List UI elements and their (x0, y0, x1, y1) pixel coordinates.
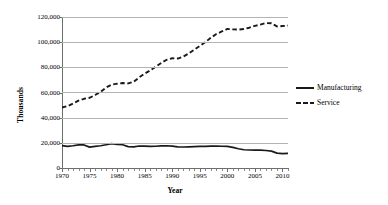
y-tick-label: 120,000 (24, 13, 60, 21)
x-tick-label: 1975 (75, 172, 105, 180)
x-tick-mark-minor (211, 169, 212, 171)
x-tick-mark-minor (73, 169, 74, 171)
x-tick-mark-minor (128, 169, 129, 171)
legend-swatch-solid-icon (296, 83, 314, 93)
chart-legend: Manufacturing Service (296, 80, 388, 110)
x-tick-label: 1985 (130, 172, 160, 180)
x-tick-mark-minor (244, 169, 245, 171)
x-tick-mark-minor (249, 169, 250, 171)
y-tick-mark (59, 118, 62, 119)
series-line-service (62, 23, 288, 108)
x-tick-mark-minor (183, 169, 184, 171)
x-tick-mark-minor (139, 169, 140, 171)
x-tick-mark-minor (161, 169, 162, 171)
x-axis-title: Year (62, 186, 288, 195)
x-tick-mark-minor (68, 169, 69, 171)
x-tick-mark-minor (266, 169, 267, 171)
x-tick-mark-minor (79, 169, 80, 171)
legend-swatch-dashed-icon (296, 98, 314, 108)
x-tick-mark-minor (277, 169, 278, 171)
x-tick-mark-minor (95, 169, 96, 171)
y-tick-label: 100,000 (24, 38, 60, 46)
y-tick-mark (59, 168, 62, 169)
chart-figure: Thousands 020,00040,00060,00080,000100,0… (0, 0, 388, 205)
x-tick-mark-minor (233, 169, 234, 171)
gridline (62, 42, 288, 43)
y-tick-label: 80,000 (24, 63, 60, 71)
gridline (62, 143, 288, 144)
x-tick-mark-minor (101, 169, 102, 171)
y-tick-mark (59, 67, 62, 68)
x-tick-mark-minor (106, 169, 107, 171)
x-tick-label: 1970 (47, 172, 77, 180)
gridline (62, 67, 288, 68)
x-tick-label: 1995 (185, 172, 215, 180)
x-tick-label: 2010 (267, 172, 297, 180)
y-tick-label: 40,000 (24, 114, 60, 122)
gridline (62, 92, 288, 93)
x-tick-label: 1980 (102, 172, 132, 180)
x-tick-mark-minor (222, 169, 223, 171)
y-tick-label: 20,000 (24, 139, 60, 147)
x-tick-mark-minor (288, 169, 289, 171)
x-tick-label: 2000 (212, 172, 242, 180)
plot-area (62, 17, 288, 168)
x-tick-mark-minor (194, 169, 195, 171)
x-tick-mark-minor (178, 169, 179, 171)
y-tick-mark (59, 93, 62, 94)
legend-label: Service (317, 98, 340, 108)
gridline (62, 17, 288, 18)
x-tick-mark-minor (238, 169, 239, 171)
x-tick-mark-minor (112, 169, 113, 171)
y-tick-mark (59, 42, 62, 43)
x-tick-mark-minor (134, 169, 135, 171)
y-tick-mark (59, 17, 62, 18)
legend-item-manufacturing[interactable]: Manufacturing (296, 80, 388, 95)
gridline (62, 118, 288, 119)
x-tick-label: 1990 (157, 172, 187, 180)
x-tick-mark-minor (150, 169, 151, 171)
x-tick-mark-minor (260, 169, 261, 171)
x-tick-label: 2005 (240, 172, 270, 180)
x-tick-mark-minor (189, 169, 190, 171)
series-line-manufacturing (62, 144, 288, 154)
y-tick-mark (59, 143, 62, 144)
x-tick-mark-minor (156, 169, 157, 171)
legend-label: Manufacturing (317, 83, 362, 93)
legend-item-service[interactable]: Service (296, 95, 388, 110)
x-tick-mark-minor (205, 169, 206, 171)
x-tick-mark-minor (123, 169, 124, 171)
x-tick-mark-minor (216, 169, 217, 171)
y-tick-label: 0 (24, 164, 60, 172)
x-tick-mark-minor (271, 169, 272, 171)
x-tick-mark-minor (167, 169, 168, 171)
y-tick-label: 60,000 (24, 89, 60, 97)
x-tick-mark-minor (84, 169, 85, 171)
